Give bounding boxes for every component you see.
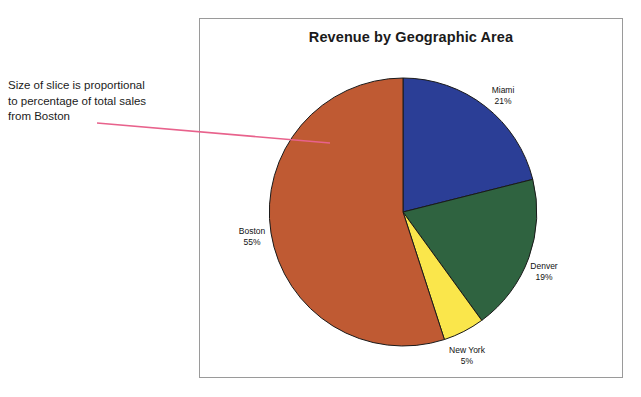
pie-label-new-york-percent: 5%	[441, 356, 493, 367]
pie-label-boston: Boston 55%	[228, 226, 276, 248]
pie-label-miami-percent: 21%	[481, 96, 525, 107]
chart-title: Revenue by Geographic Area	[199, 29, 623, 45]
pie-label-miami-name: Miami	[492, 85, 515, 95]
annotation-line-2: to percentage of total sales	[8, 94, 186, 110]
pie-chart-svg	[268, 77, 538, 347]
pie-label-new-york: New York 5%	[441, 345, 493, 367]
pie-chart	[268, 77, 538, 347]
pie-label-miami: Miami 21%	[481, 85, 525, 107]
pie-label-denver: Denver 19%	[522, 261, 566, 283]
pie-label-denver-name: Denver	[530, 261, 557, 271]
annotation-line-3: from Boston	[8, 109, 186, 125]
pie-label-new-york-name: New York	[449, 345, 485, 355]
pie-label-boston-name: Boston	[239, 226, 265, 236]
pie-label-boston-percent: 55%	[228, 237, 276, 248]
pie-label-denver-percent: 19%	[522, 272, 566, 283]
annotation-callout: Size of slice is proportional to percent…	[8, 78, 186, 125]
annotation-line-1: Size of slice is proportional	[8, 78, 186, 94]
